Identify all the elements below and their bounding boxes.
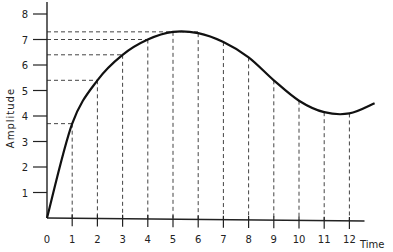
x-tick-label: 12 bbox=[343, 234, 356, 245]
x-tick-label: 10 bbox=[293, 234, 306, 245]
x-tick-label: 2 bbox=[94, 234, 100, 245]
y-tick-label: 5 bbox=[22, 86, 28, 97]
vertical-sample-lines bbox=[72, 32, 349, 221]
x-tick-label: 6 bbox=[195, 234, 201, 245]
x-tick-label: 4 bbox=[145, 234, 151, 245]
y-tick-label: 2 bbox=[22, 162, 28, 173]
x-axis-title: Time bbox=[359, 239, 384, 250]
x-tick-label: 8 bbox=[245, 234, 251, 245]
y-axis-ticks: 12345678 bbox=[22, 9, 47, 199]
y-tick-label: 6 bbox=[22, 60, 28, 71]
y-tick-label: 4 bbox=[22, 111, 28, 122]
x-tick-label: 5 bbox=[170, 234, 176, 245]
y-tick-label: 7 bbox=[22, 35, 28, 46]
amplitude-curve bbox=[47, 31, 375, 218]
x-tick-label: 3 bbox=[119, 234, 125, 245]
x-axis-line bbox=[47, 218, 365, 221]
x-tick-label: 11 bbox=[318, 234, 331, 245]
x-tick-label: 0 bbox=[44, 234, 50, 245]
x-tick-label: 1 bbox=[69, 234, 75, 245]
y-tick-label: 1 bbox=[22, 188, 28, 199]
x-tick-label: 7 bbox=[220, 234, 226, 245]
x-tick-label: 9 bbox=[271, 234, 277, 245]
amplitude-time-chart: 12345678 0123456789101112 Amplitude Time bbox=[0, 0, 393, 252]
y-tick-label: 3 bbox=[22, 137, 28, 148]
y-tick-label: 8 bbox=[22, 9, 28, 20]
y-axis-title: Amplitude bbox=[5, 88, 16, 148]
